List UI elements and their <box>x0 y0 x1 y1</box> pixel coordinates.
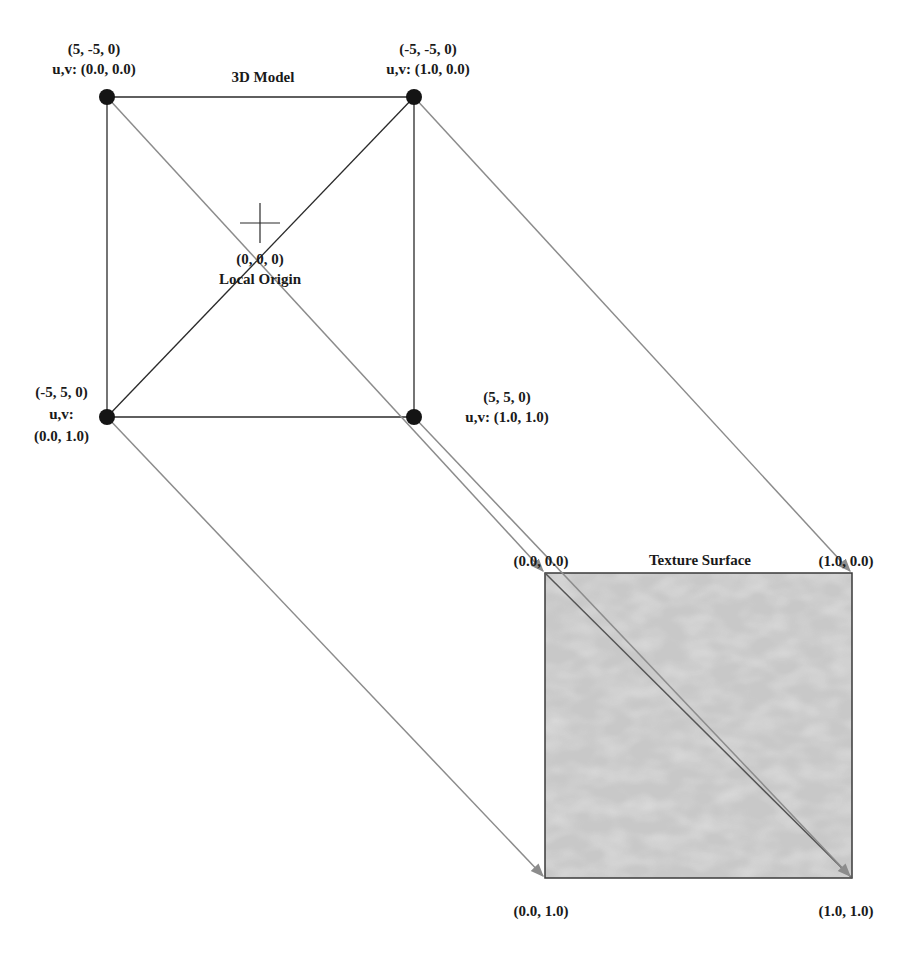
vertex-label-bottom-right: (5, 5, 0) u,v: (1.0, 1.0) <box>432 387 582 427</box>
vertex-top-right <box>406 89 422 105</box>
texture-corner-bottom-left: (0.0, 1.0) <box>496 901 586 921</box>
arrow-top-right <box>414 97 850 571</box>
vertex-label-top-left: (5, -5, 0) u,v: (0.0, 0.0) <box>14 39 174 79</box>
model-title: 3D Model <box>218 67 308 87</box>
vertex-uv: (0.0, 1.0) <box>14 425 109 447</box>
origin-crosshair-icon <box>240 203 280 243</box>
arrow-bottom-left <box>107 417 543 876</box>
vertex-label-bottom-left: (-5, 5, 0) u,v: (0.0, 1.0) <box>14 381 109 447</box>
texture-corner-bottom-right: (1.0, 1.0) <box>801 901 891 921</box>
vertex-bottom-right <box>406 409 422 425</box>
origin-name: Local Origin <box>180 269 340 289</box>
texture-surface <box>545 573 852 878</box>
vertex-top-left <box>99 89 115 105</box>
vertex-uv: u,v: (1.0, 0.0) <box>348 59 508 79</box>
uv-mapping-diagram: 3D Model (5, -5, 0) u,v: (0.0, 0.0) (-5,… <box>0 0 907 953</box>
mapping-arrows <box>107 97 850 876</box>
texture-corner-top-left: (0.0, 0.0) <box>496 551 586 571</box>
vertex-position: (-5, -5, 0) <box>348 39 508 59</box>
vertex-position: (5, 5, 0) <box>432 387 582 407</box>
origin-label: (0, 0, 0) Local Origin <box>180 249 340 289</box>
diagram-canvas <box>0 0 907 953</box>
vertex-uv: u,v: (1.0, 1.0) <box>432 407 582 427</box>
origin-coord: (0, 0, 0) <box>180 249 340 269</box>
vertex-position: (5, -5, 0) <box>14 39 174 59</box>
vertex-position: (-5, 5, 0) <box>14 381 109 403</box>
texture-title: Texture Surface <box>620 550 780 570</box>
vertex-uv-prefix: u,v: <box>14 403 109 425</box>
vertex-label-top-right: (-5, -5, 0) u,v: (1.0, 0.0) <box>348 39 508 79</box>
arrow-top-left <box>107 97 543 571</box>
vertex-uv: u,v: (0.0, 0.0) <box>14 59 174 79</box>
texture-corner-top-right: (1.0, 0.0) <box>801 551 891 571</box>
